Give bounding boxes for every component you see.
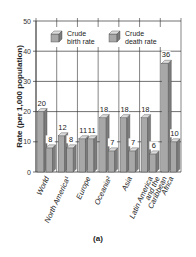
figure-caption: (a) (0, 234, 196, 243)
death-rate-bar-side (94, 136, 97, 172)
death-rate-bar-side (53, 145, 56, 172)
birth-rate-value: 12 (58, 123, 66, 132)
category-label: Europe (74, 175, 92, 201)
category-label: Oceania² (92, 175, 113, 207)
death-rate-bar-side (177, 139, 180, 172)
category-label: World (35, 174, 52, 196)
birth-rate-value: 11 (79, 126, 87, 135)
birth-rate-value: 18 (100, 105, 108, 114)
death-rate-bar (108, 151, 115, 172)
death-rate-bar (67, 148, 74, 172)
death-rate-bar-side (156, 151, 159, 172)
death-rate-value: 8 (48, 135, 52, 144)
death-rate-value: 10 (170, 129, 178, 138)
death-rate-bar-side (73, 145, 76, 172)
death-rate-bar (129, 151, 136, 172)
birth-rate-bar (58, 136, 65, 172)
birth-rate-value: 36 (162, 50, 170, 59)
death-rate-bar (170, 142, 177, 172)
death-rate-value: 6 (152, 141, 156, 150)
category-label: Asia (119, 175, 134, 193)
death-rate-bar-side (135, 148, 138, 172)
y-tick-label: 40 (23, 48, 31, 55)
birth-rate-value: 18 (120, 105, 128, 114)
y-tick-label: 0 (27, 169, 31, 176)
birth-rate-bar (100, 118, 107, 172)
legend-birth-label: birth rate (67, 38, 95, 45)
y-tick-label: 30 (23, 78, 31, 85)
birth-rate-value: 20 (38, 99, 46, 108)
legend-birth-label: Crude (67, 30, 86, 37)
bar-chart: 01020304050Rate (per 1,000 population)20… (0, 0, 196, 257)
death-rate-value: 7 (110, 138, 114, 147)
y-tick-label: 20 (23, 108, 31, 115)
legend-death-swatch (109, 34, 117, 42)
birth-rate-value: 18 (141, 105, 149, 114)
death-rate-value: 7 (131, 138, 135, 147)
death-rate-bar-side (115, 148, 118, 172)
birth-rate-bar (162, 63, 169, 172)
birth-rate-bar (141, 118, 148, 172)
death-rate-bar (46, 148, 53, 172)
death-rate-bar (87, 139, 94, 172)
birth-rate-bar (38, 112, 45, 172)
legend-birth-swatch (51, 34, 59, 42)
legend-death-label: Crude (125, 30, 144, 37)
y-tick-label: 10 (23, 138, 31, 145)
death-rate-value: 11 (88, 126, 96, 135)
y-axis-label: Rate (per 1,000 population) (15, 45, 24, 148)
birth-rate-bar (120, 118, 127, 172)
legend-death-label: death rate (125, 38, 157, 45)
death-rate-bar (150, 154, 157, 172)
death-rate-value: 8 (69, 135, 73, 144)
y-tick-label: 50 (23, 18, 31, 25)
birth-rate-bar (79, 139, 86, 172)
